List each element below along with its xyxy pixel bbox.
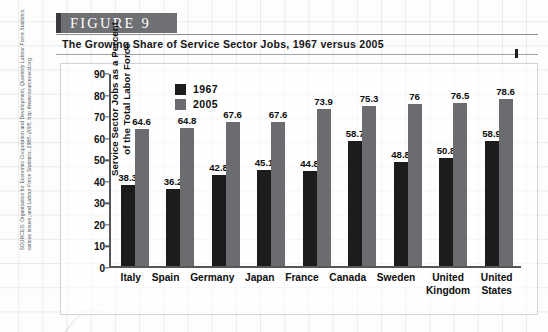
bar: 73.9 bbox=[317, 109, 331, 267]
bar: 42.8 bbox=[212, 175, 226, 266]
source-note: SOURCES: Organisation for Economic Coope… bbox=[19, 0, 32, 251]
bar-group: 58.978.6 bbox=[485, 74, 513, 266]
plot-area: 0102030405060708090 38.364.636.264.842.8… bbox=[109, 74, 521, 268]
y-axis-tick-label: 30 bbox=[94, 198, 105, 209]
bar-value-label: 64.8 bbox=[178, 115, 197, 126]
y-axis-tick-label: 10 bbox=[94, 241, 105, 252]
legend-item: 1967 bbox=[175, 83, 218, 95]
bar-value-label: 67.6 bbox=[223, 109, 242, 120]
legend-label: 2005 bbox=[193, 98, 218, 110]
y-axis-tick-mark bbox=[105, 267, 109, 268]
bar: 50.8 bbox=[439, 158, 453, 266]
y-axis-tick-label: 80 bbox=[94, 90, 105, 101]
bar-group: 50.876.5 bbox=[439, 74, 467, 266]
x-axis-category-label: Germany bbox=[190, 272, 234, 297]
bar-value-label: 78.6 bbox=[496, 86, 515, 97]
bar: 78.6 bbox=[499, 99, 513, 267]
y-axis-tick-mark bbox=[105, 181, 109, 182]
source-italic-1: Quarterly Labour Force Statistics, bbox=[19, 8, 25, 86]
figure-page: FIGURE 9 The Growing Share of Service Se… bbox=[0, 0, 548, 332]
bar-value-label: 67.6 bbox=[269, 109, 288, 120]
bar: 44.8 bbox=[303, 171, 317, 267]
bar-group: 45.167.6 bbox=[257, 74, 285, 266]
source-italic-2: Labour Force Statistics, 1985–2005, bbox=[26, 121, 32, 205]
y-axis-tick-mark bbox=[105, 246, 109, 247]
bar-value-label: 75.3 bbox=[360, 93, 379, 104]
legend-label: 1967 bbox=[193, 83, 218, 95]
bar: 58.7 bbox=[348, 141, 362, 266]
bar-value-label: 73.9 bbox=[314, 96, 333, 107]
y-axis-tick-mark bbox=[105, 138, 109, 139]
y-axis-tick-label: 20 bbox=[94, 219, 105, 230]
legend-swatch-icon bbox=[175, 99, 186, 110]
bar: 67.6 bbox=[271, 122, 285, 266]
bar-value-label: 76.5 bbox=[451, 90, 470, 101]
y-axis-tick-mark bbox=[105, 224, 109, 225]
source-middle: various issues; and bbox=[26, 205, 32, 251]
y-axis-tick-label: 70 bbox=[94, 112, 105, 123]
bar: 45.1 bbox=[257, 170, 271, 266]
source-url: http://www.sourceoecd.org bbox=[26, 58, 32, 121]
x-axis-category-label: Italy bbox=[121, 272, 141, 297]
y-axis-tick-mark bbox=[105, 73, 109, 74]
x-axis-category-label: Japan bbox=[245, 272, 274, 297]
bar-groups: 38.364.636.264.842.867.645.167.644.873.9… bbox=[111, 74, 521, 266]
y-axis-tick-mark bbox=[105, 95, 109, 96]
bar: 76.5 bbox=[453, 103, 467, 266]
x-axis-category-label: UnitedKingdom bbox=[426, 272, 470, 297]
figure-title-rule-endcap bbox=[515, 49, 518, 58]
bar: 67.6 bbox=[226, 122, 240, 266]
y-axis-tick-mark bbox=[105, 160, 109, 161]
x-axis-category-label: UnitedStates bbox=[481, 272, 513, 297]
y-axis-tick-mark bbox=[105, 116, 109, 117]
bar: 48.8 bbox=[394, 162, 408, 266]
x-axis-category-label: Sweden bbox=[377, 272, 416, 297]
x-axis-category-label: Canada bbox=[329, 272, 366, 297]
x-axis-line bbox=[109, 266, 521, 268]
x-axis-category-label: Spain bbox=[152, 272, 180, 297]
x-axis-category-labels: ItalySpainGermanyJapanFranceCanadaSweden… bbox=[111, 272, 521, 297]
y-axis-tick-mark bbox=[105, 203, 109, 204]
bar-value-label: 76 bbox=[409, 91, 420, 102]
bar-group: 38.364.6 bbox=[121, 74, 149, 266]
chart-legend: 19672005 bbox=[175, 83, 218, 110]
y-axis-tick-label: 40 bbox=[94, 176, 105, 187]
bar: 38.3 bbox=[121, 185, 135, 267]
chart-frame: Service Sector Jobs as a Percent of the … bbox=[60, 63, 538, 315]
source-prefix: SOURCES: Organisation for Economic Coope… bbox=[19, 86, 25, 251]
legend-swatch-icon bbox=[175, 84, 186, 95]
bar: 64.6 bbox=[135, 129, 149, 267]
legend-item: 2005 bbox=[175, 98, 218, 110]
bar: 76 bbox=[408, 104, 422, 266]
y-axis-tick-label: 90 bbox=[94, 69, 105, 80]
bar-group: 48.876 bbox=[394, 74, 422, 266]
y-axis-tick-label: 60 bbox=[94, 133, 105, 144]
bar: 64.8 bbox=[180, 128, 194, 266]
bar: 58.9 bbox=[485, 141, 499, 267]
bar-group: 58.775.3 bbox=[348, 74, 376, 266]
x-axis-category-label: France bbox=[285, 272, 318, 297]
bar: 75.3 bbox=[362, 106, 376, 267]
y-axis-tick-label: 50 bbox=[94, 155, 105, 166]
bar: 36.2 bbox=[166, 189, 180, 266]
bar-group: 44.873.9 bbox=[303, 74, 331, 266]
bar-value-label: 64.6 bbox=[132, 116, 151, 127]
